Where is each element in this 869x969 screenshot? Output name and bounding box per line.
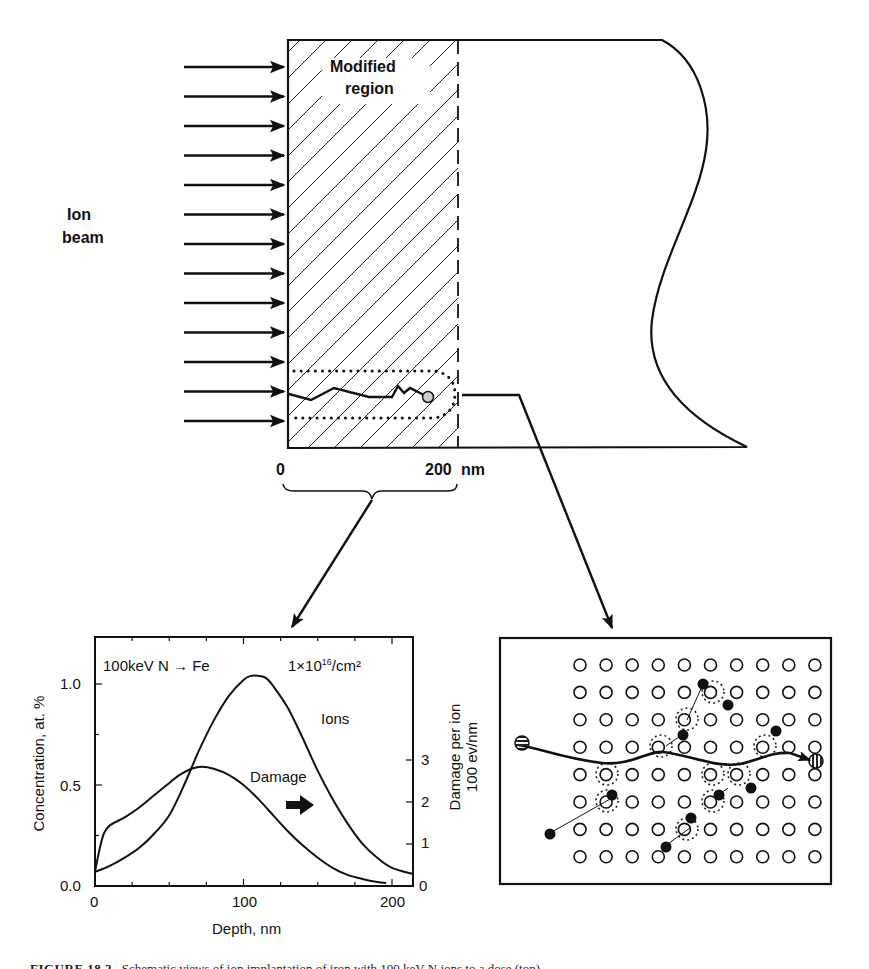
lattice-atom-icon: [705, 659, 717, 671]
lattice-atom-icon: [574, 714, 586, 726]
lattice-atom-icon: [678, 659, 690, 671]
lattice-atom-icon: [626, 686, 638, 698]
lattice-atom-icon: [600, 769, 612, 781]
recoil-paths: [550, 684, 728, 846]
xtick-0: 0: [90, 893, 98, 910]
dose-prefix: 1×10: [288, 657, 322, 674]
stopped-ion-icon: [423, 392, 434, 403]
modified-region-label-line2: region: [345, 80, 394, 98]
dose-exponent: 16: [322, 657, 332, 667]
lattice-atom-icon: [809, 686, 821, 698]
y2-axis-label-line2: 100 ev/nm: [463, 687, 480, 827]
lattice-atom-icon: [678, 851, 690, 863]
ion-beam-label-line1: Ion: [67, 206, 91, 224]
lattice-atom-icon: [626, 796, 638, 808]
x-axis-label: Depth, nm: [212, 920, 281, 937]
lattice-atom-icon: [731, 851, 743, 863]
target-block: [283, 40, 747, 628]
ion-beam-arrows: [184, 67, 284, 421]
chart-annotation-beam: 100keV N → Fe: [103, 657, 210, 674]
lattice-atom-icon: [809, 714, 821, 726]
lattice-atom-icon: [809, 796, 821, 808]
lattice-atoms: [574, 659, 821, 863]
lattice-atom-icon: [652, 796, 664, 808]
lattice-atom-icon: [705, 741, 717, 753]
lattice-atom-icon: [731, 714, 743, 726]
y2tick-0: 0: [419, 877, 427, 894]
lattice-atom-icon: [757, 659, 769, 671]
axis-ticks: [95, 637, 413, 886]
y2-axis-label: Damage per ion100 ev/nm: [446, 687, 480, 827]
y2tick-2: 2: [421, 793, 429, 810]
lattice-atom-icon: [783, 714, 795, 726]
lattice-atom-icon: [783, 659, 795, 671]
caption-text: Schematic views of ion implantation of i…: [122, 961, 540, 969]
lattice-atom-icon: [783, 686, 795, 698]
depth-end-label: 200: [425, 461, 452, 479]
lattice-atom-icon: [757, 714, 769, 726]
lattice-atom-icon: [574, 796, 586, 808]
lattice-atom-icon: [757, 823, 769, 835]
damage-series-label: Damage: [250, 768, 307, 785]
lattice-atom-icon: [731, 796, 743, 808]
lattice-atom-icon: [705, 851, 717, 863]
lattice-atom-icon: [809, 851, 821, 863]
lattice-atom-icon: [731, 741, 743, 753]
lattice-atom-icon: [731, 686, 743, 698]
lattice-atom-icon: [600, 823, 612, 835]
lattice-atom-icon: [757, 851, 769, 863]
lattice-atom-icon: [705, 823, 717, 835]
lattice-atom-icon: [600, 686, 612, 698]
lattice-atom-icon: [678, 769, 690, 781]
lattice-atom-icon: [783, 823, 795, 835]
lattice-atom-icon: [757, 796, 769, 808]
y2-axis-label-line1: Damage per ion: [446, 687, 463, 827]
lattice-diagram: [500, 638, 831, 884]
lattice-atom-icon: [652, 659, 664, 671]
depth-profile-chart: [95, 637, 413, 886]
right-arrow-icon: [286, 795, 314, 815]
lattice-atom-icon: [626, 851, 638, 863]
damage-curve: [95, 767, 386, 883]
lattice-atom-icon: [783, 851, 795, 863]
ytick-0-0: 0.0: [60, 877, 81, 894]
lattice-atom-icon: [574, 741, 586, 753]
stopped-ion-lattice-icon: [809, 754, 823, 768]
lattice-atom-icon: [574, 851, 586, 863]
lattice-atom-icon: [757, 741, 769, 753]
figure-caption: FIGURE 18.2 Schematic views of ion impla…: [30, 958, 869, 969]
lattice-atom-icon: [678, 741, 690, 753]
ion-beam-label-line2: beam: [62, 229, 104, 247]
lattice-atom-icon: [757, 686, 769, 698]
lattice-atom-icon: [574, 686, 586, 698]
xtick-200: 200: [380, 893, 405, 910]
lattice-atom-icon: [652, 769, 664, 781]
lattice-atom-icon: [809, 659, 821, 671]
lattice-atom-icon: [600, 659, 612, 671]
xtick-100: 100: [232, 893, 257, 910]
lattice-atom-icon: [600, 741, 612, 753]
lattice-atom-icon: [652, 823, 664, 835]
y2tick-1: 1: [421, 834, 429, 851]
chart-annotation-dose: 1×1016/cm²: [288, 657, 361, 674]
zoom-arrow-profile: [292, 500, 372, 627]
lattice-atom-icon: [809, 823, 821, 835]
ytick-0-5: 0.5: [60, 777, 81, 794]
lattice-atom-icon: [705, 769, 717, 781]
plot-frame: [95, 637, 413, 886]
lattice-atom-icon: [678, 796, 690, 808]
lattice-atom-icon: [783, 796, 795, 808]
lattice-atom-icon: [809, 741, 821, 753]
lattice-atom-icon: [600, 851, 612, 863]
y2tick-3: 3: [421, 751, 429, 768]
lattice-atom-icon: [731, 769, 743, 781]
lattice-atom-icon: [731, 659, 743, 671]
lattice-atom-icon: [652, 851, 664, 863]
incoming-ion-icon: [515, 736, 529, 750]
y-axis-label: Concentration, at. %: [30, 684, 47, 844]
lattice-atom-icon: [626, 659, 638, 671]
lattice-atom-icon: [652, 686, 664, 698]
lattice-atom-icon: [626, 823, 638, 835]
zoom-arrow-lattice: [462, 395, 612, 628]
lattice-atom-icon: [626, 714, 638, 726]
